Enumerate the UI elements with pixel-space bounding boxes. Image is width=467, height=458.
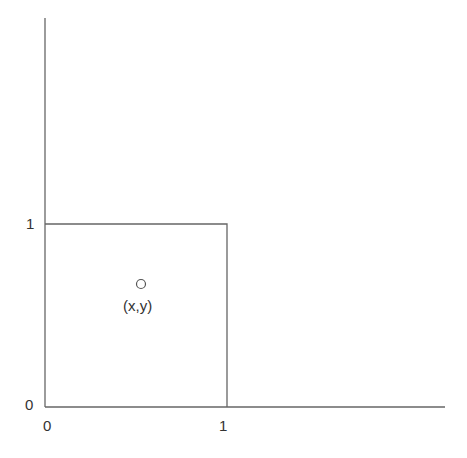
y-tick-0: 0 <box>25 397 33 412</box>
unit-square <box>45 224 227 407</box>
x-tick-0: 0 <box>43 418 51 433</box>
x-tick-1: 1 <box>219 418 227 433</box>
y-tick-1: 1 <box>26 216 34 231</box>
point-label: (x,y) <box>123 298 152 313</box>
diagram-canvas <box>0 0 467 458</box>
point-marker <box>137 280 146 289</box>
